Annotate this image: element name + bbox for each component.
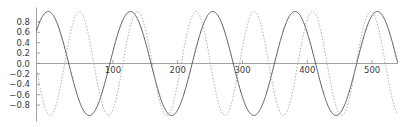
y-tick-label: −0.2 (9, 69, 30, 79)
y-tick-label: 0.8 (16, 17, 30, 27)
y-axis-tick-labels: 0.80.60.40.20.0−0.2−0.4−0.6−0.8 (9, 17, 30, 110)
y-tick-label: −0.4 (9, 79, 30, 89)
x-axis-tick-labels: 100200300400500 (105, 65, 380, 75)
x-tick-label: 400 (299, 65, 315, 75)
y-tick-label: 0.4 (16, 38, 30, 48)
axis-lines (37, 8, 399, 122)
x-tick-label: 200 (170, 65, 186, 75)
x-tick-label: 300 (234, 65, 250, 75)
y-tick-label: −0.8 (9, 100, 30, 110)
x-tick-label: 500 (364, 65, 380, 75)
sine-wave-plot: 0.80.60.40.20.0−0.2−0.4−0.6−0.8 10020030… (0, 0, 411, 127)
y-tick-label: 0.6 (16, 27, 30, 37)
chart-container: 0.80.60.40.20.0−0.2−0.4−0.6−0.8 10020030… (0, 0, 411, 127)
y-tick-label: −0.6 (9, 90, 30, 100)
y-tick-label: 0.2 (16, 48, 30, 58)
y-tick-label: 0.0 (16, 59, 30, 69)
